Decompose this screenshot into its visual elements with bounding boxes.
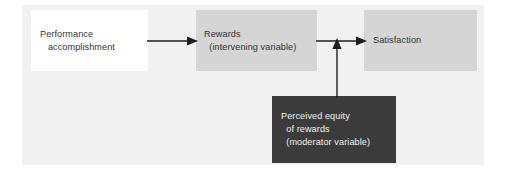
node-rewards-label: Rewards (intervening variable) bbox=[204, 28, 296, 54]
node-perceived-equity: Perceived equity of rewards (moderator v… bbox=[272, 96, 396, 163]
node-performance-accomplishment: Performance accomplishment bbox=[31, 10, 148, 71]
node-equity-label-line2: of rewards bbox=[281, 124, 330, 134]
node-rewards-label-line1: Rewards bbox=[204, 29, 241, 39]
diagram-root: Performance accomplishment Rewards (inte… bbox=[0, 0, 506, 179]
node-performance-label-line2: accomplishment bbox=[40, 42, 115, 52]
node-equity-label-line3: (moderator variable) bbox=[281, 137, 370, 147]
node-equity-label-line1: Perceived equity bbox=[281, 111, 350, 121]
node-performance-label-line1: Performance bbox=[40, 29, 93, 39]
node-satisfaction: Satisfaction bbox=[364, 10, 477, 71]
node-rewards-label-line2: (intervening variable) bbox=[204, 42, 296, 52]
node-performance-label: Performance accomplishment bbox=[40, 28, 115, 54]
node-satisfaction-label: Satisfaction bbox=[373, 34, 421, 47]
node-equity-label: Perceived equity of rewards (moderator v… bbox=[281, 110, 370, 149]
arrow-performance-to-rewards-icon bbox=[146, 30, 200, 52]
arrow-perceived-equity-to-link-icon bbox=[326, 36, 348, 100]
node-rewards: Rewards (intervening variable) bbox=[196, 10, 317, 71]
node-satisfaction-label-line1: Satisfaction bbox=[373, 35, 421, 45]
